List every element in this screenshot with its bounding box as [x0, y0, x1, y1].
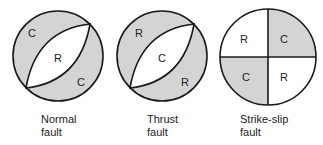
normal-bottom-right-label: C	[77, 76, 85, 89]
strike-slip-fault-caption: Strike-slip fault	[240, 113, 288, 139]
strike-slip-bottom-right-label: R	[280, 71, 288, 84]
normal-top-left-label: C	[28, 27, 36, 40]
strike-slip-bottom-left-label: C	[242, 71, 250, 84]
normal-fault-caption: Normal fault	[41, 113, 76, 139]
normal-center-label: R	[54, 52, 62, 65]
thrust-bottom-right-label: R	[181, 76, 189, 89]
strike-slip-fault-beachball	[220, 9, 316, 105]
thrust-top-left-label: R	[135, 27, 143, 40]
thrust-center-label: C	[158, 52, 166, 65]
strike-slip-top-right-label: C	[280, 33, 288, 46]
strike-slip-top-left-label: R	[240, 33, 248, 46]
thrust-fault-caption: Thrust fault	[147, 113, 178, 139]
